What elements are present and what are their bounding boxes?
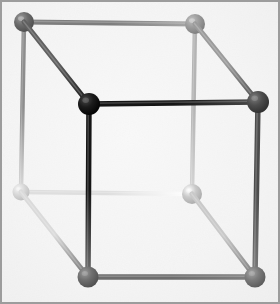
vertex-front-top-right-specular bbox=[251, 96, 258, 101]
vertex-front-bottom-left-sphere bbox=[78, 267, 99, 288]
edge-front-left-vertical-specular bbox=[87, 103, 88, 276]
ball-and-stick-cube-svg bbox=[0, 0, 280, 304]
vertex-front-top-right-sphere bbox=[247, 91, 269, 113]
vertex-front-bottom-left-specular bbox=[82, 271, 88, 276]
vertex-front-top-left-specular bbox=[82, 98, 89, 103]
vertex-front-bottom-right bbox=[245, 267, 266, 288]
edge-front-left-vertical bbox=[87, 103, 89, 277]
vertex-front-bottom-right-sphere bbox=[245, 267, 266, 288]
vertex-front-top-right bbox=[247, 91, 269, 113]
edge-front-right-vertical bbox=[254, 101, 258, 277]
figure-canvas: Ball-and-stick cube bbox=[0, 0, 280, 304]
vertex-front-bottom-right-specular bbox=[249, 271, 255, 276]
edge-back-bottom bbox=[20, 191, 192, 194]
edge-front-top bbox=[88, 101, 258, 104]
edge-front-bottom bbox=[87, 276, 255, 277]
vertex-front-bottom-left bbox=[78, 267, 99, 288]
edge-back-top bbox=[23, 21, 195, 24]
vertex-front-top-left bbox=[78, 93, 100, 115]
vertex-front-top-left-sphere bbox=[78, 93, 100, 115]
